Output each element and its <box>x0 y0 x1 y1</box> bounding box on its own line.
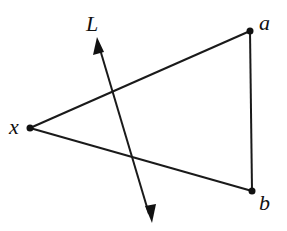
triangle-diagram: L a x b <box>0 0 287 231</box>
segment-xb <box>30 128 252 191</box>
label-line-l: L <box>85 11 98 36</box>
label-a: a <box>259 10 270 35</box>
vertex-x <box>27 125 34 132</box>
line-l <box>99 46 149 214</box>
vertex-a <box>247 28 254 35</box>
arrowhead-down-icon <box>145 204 156 223</box>
label-b: b <box>259 190 270 215</box>
vertex-b <box>249 188 256 195</box>
segment-ab <box>250 31 252 191</box>
segment-xa <box>30 31 250 128</box>
label-x: x <box>8 114 19 139</box>
arrowhead-up-icon <box>93 37 104 55</box>
